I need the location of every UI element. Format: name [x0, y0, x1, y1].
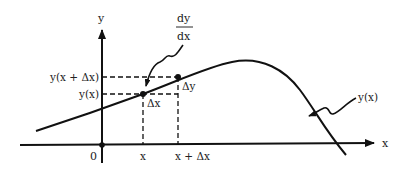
x1-tick-label: x — [140, 150, 146, 162]
y1-tick-label: y(x) — [78, 88, 99, 100]
derivative-denominator: dx — [177, 30, 191, 43]
origin-label: 0 — [90, 150, 97, 163]
y2-tick-label: y(x + Δx) — [49, 71, 99, 83]
derivative-diagram: y x 0 x x + Δx y(x) y(x + Δx) Δx Δy dy d… — [0, 0, 409, 170]
x-axis-label: x — [382, 137, 389, 150]
delta-x-label: Δx — [147, 97, 161, 109]
delta-y-label: Δy — [182, 80, 196, 92]
x-axis — [20, 143, 374, 145]
x2-tick-label: x + Δx — [175, 150, 210, 162]
curve-label: y(x) — [357, 91, 378, 103]
origin-point — [99, 142, 105, 148]
y-axis-label: y — [97, 12, 105, 25]
point-x-plus-dx — [175, 74, 181, 80]
point-x — [140, 91, 146, 97]
derivative-numerator: dy — [177, 12, 191, 25]
